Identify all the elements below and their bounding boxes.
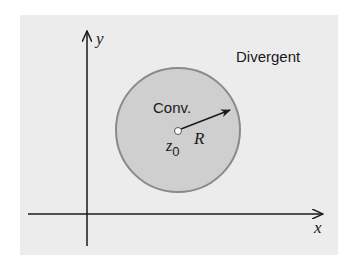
center-point-icon xyxy=(175,128,182,135)
convergent-label: Conv. xyxy=(153,99,191,116)
divergent-label: Divergent xyxy=(236,48,301,65)
x-axis-label: x xyxy=(313,218,322,237)
radius-label: R xyxy=(193,129,205,148)
y-axis-label: y xyxy=(94,29,104,48)
convergence-disk-diagram: Divergent Conv. R z0 y x xyxy=(0,0,350,263)
